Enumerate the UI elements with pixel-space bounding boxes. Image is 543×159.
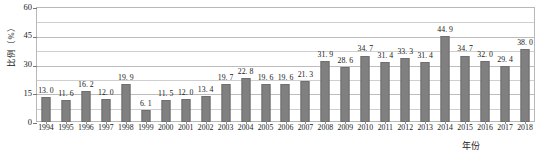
bar-value-label: 19. 7 <box>218 74 234 82</box>
bar[interactable] <box>61 100 70 122</box>
bar[interactable] <box>181 99 190 122</box>
bar-group[interactable]: 22. 8 <box>236 7 256 122</box>
bar-group[interactable]: 12. 0 <box>176 7 196 122</box>
bar[interactable] <box>201 96 210 122</box>
bar[interactable] <box>341 67 350 122</box>
x-axis-tick-label: 2014 <box>435 124 455 132</box>
x-axis-tick-label: 2008 <box>315 124 335 132</box>
x-axis-tick-mark <box>46 120 47 124</box>
bar-group[interactable]: 19. 9 <box>116 7 136 122</box>
bar[interactable] <box>461 56 470 123</box>
bar[interactable] <box>301 81 310 122</box>
x-axis-tick-label: 2015 <box>455 124 475 132</box>
y-axis-tick-label: 30 <box>16 60 32 69</box>
x-axis-tick-mark <box>66 120 67 124</box>
bar-group[interactable]: 29. 4 <box>495 7 515 122</box>
bar-group[interactable]: 12. 0 <box>96 7 116 122</box>
bar[interactable] <box>221 84 230 122</box>
bar[interactable] <box>361 56 370 123</box>
x-axis-tick-mark <box>465 120 466 124</box>
bar[interactable] <box>321 61 330 122</box>
x-axis-tick-mark <box>86 120 87 124</box>
bar[interactable] <box>121 84 130 122</box>
x-axis-tick-mark <box>166 120 167 124</box>
bar-value-label: 34. 7 <box>457 45 473 53</box>
bar-group[interactable]: 13. 0 <box>36 7 56 122</box>
bar-group[interactable]: 13. 4 <box>196 7 216 122</box>
x-axis-tick-label: 2016 <box>475 124 495 132</box>
bar-group[interactable]: 31. 9 <box>315 7 335 122</box>
bar-value-label: 19. 6 <box>278 74 294 82</box>
bar-value-label: 19. 9 <box>118 74 134 82</box>
bar[interactable] <box>261 84 270 122</box>
x-axis-tick-mark <box>286 120 287 124</box>
y-axis-tick-label: 0 <box>16 118 32 127</box>
y-axis-tick-label: 15 <box>16 89 32 98</box>
x-axis-tick-mark <box>266 120 267 124</box>
x-axis-tick-label: 1995 <box>56 124 76 132</box>
bar-value-label: 29. 4 <box>497 56 513 64</box>
bar-value-label: 22. 8 <box>238 68 254 76</box>
x-axis-title: 年份 <box>462 139 480 152</box>
bar-value-label: 44. 9 <box>437 26 453 34</box>
x-axis-tick-label: 1994 <box>36 124 56 132</box>
bar[interactable] <box>421 62 430 122</box>
bar-group[interactable]: 32. 0 <box>475 7 495 122</box>
bar-group[interactable]: 11. 5 <box>156 7 176 122</box>
x-axis-tick-mark <box>425 120 426 124</box>
bar-group[interactable]: 19. 6 <box>256 7 276 122</box>
x-axis-tick-mark <box>186 120 187 124</box>
bar-value-label: 32. 0 <box>477 51 493 59</box>
bar-value-label: 21. 3 <box>298 71 314 79</box>
bar-group[interactable]: 34. 7 <box>455 7 475 122</box>
bar-group[interactable]: 28. 6 <box>335 7 355 122</box>
x-axis-tick-labels: 1994199519961997199819992000200120022003… <box>36 124 535 136</box>
bar-group[interactable]: 31. 4 <box>375 7 395 122</box>
bar-group[interactable]: 38. 0 <box>515 7 535 122</box>
x-axis-tick-mark <box>365 120 366 124</box>
x-axis-tick-mark <box>525 120 526 124</box>
bar-group[interactable]: 33. 3 <box>395 7 415 122</box>
x-axis-tick-label: 2012 <box>395 124 415 132</box>
bar-value-label: 13. 0 <box>38 87 54 95</box>
bar-group[interactable]: 44. 9 <box>435 7 455 122</box>
bar[interactable] <box>481 61 490 122</box>
bar-value-label: 11. 6 <box>58 90 73 98</box>
x-axis-tick-label: 1998 <box>116 124 136 132</box>
bar[interactable] <box>281 84 290 122</box>
x-axis-tick-label: 2005 <box>256 124 276 132</box>
bar-value-label: 28. 6 <box>338 57 354 65</box>
bar-value-label: 6. 1 <box>140 100 152 108</box>
bar-group[interactable]: 19. 6 <box>276 7 296 122</box>
bar[interactable] <box>381 62 390 122</box>
bar[interactable] <box>41 97 50 122</box>
x-axis-tick-label: 2018 <box>515 124 535 132</box>
x-axis-tick-label: 2002 <box>196 124 216 132</box>
bar[interactable] <box>521 49 530 122</box>
bar-group[interactable]: 34. 7 <box>355 7 375 122</box>
bar[interactable] <box>501 66 510 122</box>
x-axis-tick-mark <box>146 120 147 124</box>
bar-group[interactable]: 19. 7 <box>216 7 236 122</box>
bar[interactable] <box>161 100 170 122</box>
bar-group[interactable]: 21. 3 <box>295 7 315 122</box>
bar[interactable] <box>241 78 250 122</box>
x-axis-tick-mark <box>445 120 446 124</box>
x-axis-tick-mark <box>246 120 247 124</box>
bar-group[interactable]: 6. 1 <box>136 7 156 122</box>
bar-group[interactable]: 11. 6 <box>56 7 76 122</box>
x-axis-tick-label: 2003 <box>216 124 236 132</box>
bar-group[interactable]: 31. 4 <box>415 7 435 122</box>
bar[interactable] <box>81 91 90 122</box>
x-axis-tick-label: 1999 <box>136 124 156 132</box>
x-axis-tick-mark <box>226 120 227 124</box>
x-axis-tick-mark <box>385 120 386 124</box>
x-axis-tick-mark <box>485 120 486 124</box>
bar-value-label: 34. 7 <box>358 45 374 53</box>
bar[interactable] <box>441 36 450 122</box>
x-axis-tick-mark <box>206 120 207 124</box>
bar-group[interactable]: 16. 2 <box>76 7 96 122</box>
bar[interactable] <box>101 99 110 122</box>
bar[interactable] <box>401 58 410 122</box>
x-axis-tick-label: 2004 <box>236 124 256 132</box>
